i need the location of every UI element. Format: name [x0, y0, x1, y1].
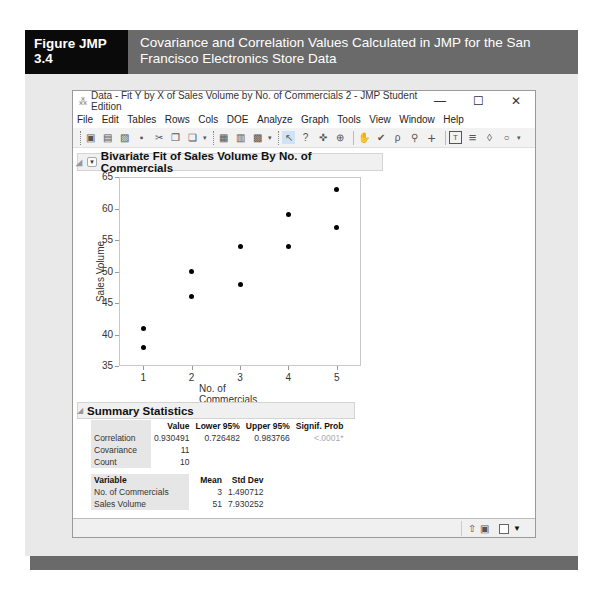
menu-file[interactable]: File — [77, 114, 93, 125]
title-bar: ⁂ Data - Fit Y by X of Sales Volume by N… — [73, 91, 535, 111]
plus-tool-icon[interactable]: + — [425, 131, 438, 144]
x-tick-mark — [192, 366, 193, 370]
navigate-up-icon[interactable]: ⇧ — [468, 523, 476, 534]
menu-doe[interactable]: DOE — [227, 114, 249, 125]
crosshair-tool-icon[interactable]: ⊕ — [333, 131, 346, 144]
column-header-upper95: Upper 95% — [243, 420, 293, 432]
x-tick-label: 5 — [331, 372, 343, 383]
copy-icon[interactable]: ❐ — [169, 131, 182, 144]
figure-title: Covariance and Correlation Values Calcul… — [128, 30, 578, 74]
red-triangle-menu-icon[interactable]: ▼ — [87, 157, 97, 167]
cell-mean: 51 — [189, 498, 225, 510]
close-button[interactable]: ✕ — [497, 94, 535, 108]
open-icon[interactable]: ▨ — [118, 131, 131, 144]
bivariate-report-header[interactable]: ◢ ▼ Bivariate Fit of Sales Volume By No.… — [77, 153, 383, 171]
row-label: Count — [91, 456, 151, 468]
summary-table: Value Lower 95% Upper 95% Signif. Prob C… — [91, 420, 347, 468]
toolbar-overflow-icon[interactable]: ▾ — [268, 134, 272, 142]
toolbar-overflow-icon[interactable]: ▾ — [203, 134, 207, 142]
x-tick-label: 4 — [282, 372, 294, 383]
hand-tool-icon[interactable]: ✋ — [357, 131, 370, 144]
cell-prob: <.0001* — [293, 432, 347, 444]
brush-tool-icon[interactable]: ✔ — [374, 131, 387, 144]
disclosure-triangle-icon[interactable]: ◢ — [77, 406, 83, 415]
menu-cols[interactable]: Cols — [198, 114, 218, 125]
menu-bar: File Edit Tables Rows Cols DOE Analyze G… — [73, 111, 535, 128]
layout-icon[interactable]: ▣ — [480, 523, 489, 534]
data-point[interactable] — [141, 345, 146, 350]
minimize-button[interactable]: — — [421, 94, 459, 108]
polygon-tool-icon[interactable]: ◊ — [483, 131, 496, 144]
data-table-icon[interactable]: ▦ — [217, 131, 230, 144]
lasso-tool-icon[interactable]: ρ — [391, 131, 404, 144]
fit-model-icon[interactable]: ▩ — [251, 131, 264, 144]
y-tick-label: 60 — [93, 203, 113, 214]
cell-value: 11 — [151, 444, 192, 456]
toolbar-separator — [353, 131, 354, 145]
dropdown-arrow-icon[interactable]: ▼ — [513, 524, 521, 533]
y-tick-mark — [115, 272, 119, 273]
ellipse-tool-icon[interactable]: ○ — [500, 131, 513, 144]
column-header-value: Value — [151, 420, 192, 432]
menu-tools[interactable]: Tools — [337, 114, 360, 125]
menu-view[interactable]: View — [369, 114, 391, 125]
toolbar-grip[interactable] — [80, 131, 81, 145]
new-data-table-icon[interactable]: ▣ — [84, 131, 97, 144]
menu-rows[interactable]: Rows — [165, 114, 190, 125]
column-header-mean: Mean — [189, 474, 225, 486]
cell-sd: 7.930252 — [225, 498, 266, 510]
data-point[interactable] — [238, 282, 243, 287]
x-tick-mark — [337, 366, 338, 370]
toolbar-separator — [213, 131, 214, 145]
menu-window[interactable]: Window — [399, 114, 435, 125]
disclosure-triangle-icon[interactable]: ◢ — [76, 158, 82, 167]
variable-table: Variable Mean Std Dev No. of Commercials… — [91, 474, 266, 510]
checkbox-icon[interactable] — [499, 524, 509, 534]
data-point[interactable] — [141, 326, 146, 331]
y-tick-mark — [115, 335, 119, 336]
cut-icon[interactable]: ✂ — [152, 131, 165, 144]
paste-icon[interactable]: ❏ — [186, 131, 199, 144]
figure-label: Figure JMP 3.4 — [25, 30, 128, 74]
data-point[interactable] — [238, 244, 243, 249]
cell-value: 0.930491 — [151, 432, 192, 444]
column-header-signif-prob: Signif. Prob — [293, 420, 347, 432]
plot-frame[interactable] — [119, 177, 361, 366]
x-tick-label: 2 — [186, 372, 198, 383]
x-tick-mark — [288, 366, 289, 370]
magnifier-tool-icon[interactable]: ⚲ — [408, 131, 421, 144]
cell-lower: 0.726482 — [192, 432, 242, 444]
cell-upper: 0.983766 — [243, 432, 293, 444]
table-header-row: Variable Mean Std Dev — [91, 474, 266, 486]
x-tick-label: 1 — [137, 372, 149, 383]
y-tick-mark — [115, 177, 119, 178]
arrow-tool-icon[interactable]: ↖ — [282, 131, 295, 144]
menu-analyze[interactable]: Analyze — [257, 114, 293, 125]
maximize-button[interactable]: ☐ — [459, 94, 497, 108]
row-label: Sales Volume — [91, 498, 189, 510]
toolbar-overflow-icon[interactable]: ▾ — [517, 134, 521, 142]
table-row: No. of Commercials 3 1.490712 — [91, 486, 266, 498]
y-tick-label: 35 — [93, 360, 113, 371]
menu-help[interactable]: Help — [443, 114, 464, 125]
status-icons: ⇧ ▣ ▼ — [461, 521, 525, 536]
data-point[interactable] — [286, 244, 291, 249]
save-icon[interactable]: ▪ — [135, 131, 148, 144]
new-script-icon[interactable]: ▤ — [101, 131, 114, 144]
window-title: Data - Fit Y by X of Sales Volume by No.… — [91, 90, 421, 112]
cell-mean: 3 — [189, 486, 225, 498]
toolbar-separator — [278, 131, 279, 145]
menu-tables[interactable]: Tables — [127, 114, 156, 125]
figure-bottom-rule — [30, 556, 578, 570]
menu-edit[interactable]: Edit — [102, 114, 119, 125]
help-tool-icon[interactable]: ? — [299, 131, 312, 144]
distribution-icon[interactable]: ▥ — [234, 131, 247, 144]
menu-graph[interactable]: Graph — [301, 114, 329, 125]
cell-value: 10 — [151, 456, 192, 468]
line-tool-icon[interactable]: ≡ — [466, 131, 479, 144]
selection-tool-icon[interactable]: ✜ — [316, 131, 329, 144]
annotate-tool-icon[interactable]: T — [449, 131, 462, 144]
table-row: Correlation 0.930491 0.726482 0.983766 <… — [91, 432, 347, 444]
y-tick-label: 40 — [93, 329, 113, 340]
summary-statistics-header[interactable]: ◢ Summary Statistics — [77, 402, 355, 419]
